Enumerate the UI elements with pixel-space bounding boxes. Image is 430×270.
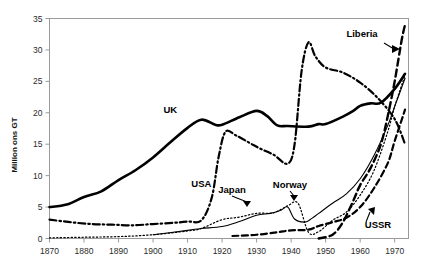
- y-tick-label: 20: [33, 108, 43, 118]
- y-tick-label: 15: [33, 139, 43, 149]
- x-tick-label: 1900: [144, 246, 163, 256]
- y-tick-label: 35: [33, 14, 43, 24]
- y-tick-label: 0: [38, 234, 43, 244]
- y-tick-label: 5: [38, 202, 43, 212]
- x-tick-label: 1930: [247, 246, 266, 256]
- series-annotation-norway: Norway: [273, 179, 308, 190]
- x-tick-label: 1920: [213, 246, 232, 256]
- chart-container: 05101520253035 1870188018901900191019201…: [0, 0, 430, 270]
- series-annotation-usa: USA: [191, 178, 211, 189]
- x-tick-label: 1870: [40, 246, 59, 256]
- x-tick-label: 1880: [75, 246, 94, 256]
- x-tick-label: 1910: [178, 246, 197, 256]
- series-annotation-ussr: USSR: [365, 219, 392, 230]
- y-tick-label: 25: [33, 76, 43, 86]
- y-tick-label: 30: [33, 45, 43, 55]
- series-annotation-liberia: Liberia: [346, 28, 378, 39]
- x-tick-label: 1970: [385, 246, 404, 256]
- series-annotation-uk: UK: [163, 104, 177, 115]
- line-chart: 05101520253035 1870188018901900191019201…: [0, 0, 430, 270]
- series-annotation-japan: Japan: [218, 184, 246, 195]
- y-axis-title: Million ons GT: [10, 117, 19, 172]
- y-tick-label: 10: [33, 171, 43, 181]
- x-tick-label: 1960: [351, 246, 370, 256]
- x-tick-label: 1950: [316, 246, 335, 256]
- x-tick-label: 1940: [282, 246, 301, 256]
- x-tick-label: 1890: [109, 246, 128, 256]
